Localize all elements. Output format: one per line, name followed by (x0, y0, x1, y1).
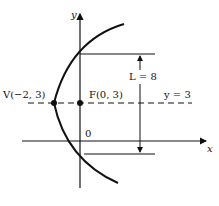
axis-of-symmetry-label: y = 3 (163, 89, 191, 100)
y-axis-label: y (70, 9, 77, 20)
vertex-point (51, 100, 57, 106)
x-axis-label: x (207, 143, 213, 154)
latus-rectum-label: L = 8 (129, 71, 157, 82)
parabola-diagram: y x 0 V(−2, 3) F(0, 3) y = 3 L = 8 (0, 0, 219, 206)
focus-point (77, 100, 83, 106)
vertex-label: V(−2, 3) (2, 89, 46, 100)
origin-label: 0 (85, 128, 91, 139)
focus-label: F(0, 3) (89, 89, 123, 100)
